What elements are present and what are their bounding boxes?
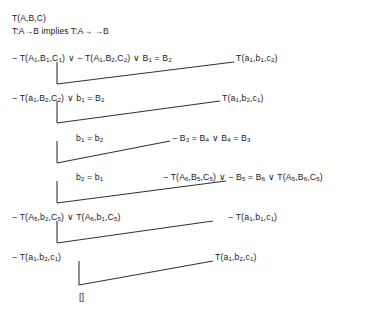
clause-empty: [] [79,292,84,303]
clause-left-5: − T(A5,b2,C5) ∨ T(A6,b1,C5) [12,212,121,223]
edge-1 [57,62,234,84]
edge-3 [57,141,170,163]
edge-2 [57,101,220,123]
clause-left-6: − T(a1,b2,c1) [12,252,61,263]
edge-6 [79,261,213,285]
edge-2-diagonal [57,101,220,123]
proof-tree-diagram: T(A,B,C) T:A→B implies T:A→ →B − T(A1,B1… [0,0,372,318]
clause-right-1: T(a1,b1,c2) [236,53,278,64]
edge-6-diagonal [79,261,213,285]
resolution-edges [0,0,372,318]
clause-left-2: − T(a1,B2,C2) ∨ b1 = B2 [12,93,105,104]
clause-right-6: T(a1,b2,c1) [215,252,257,263]
clause-right-4: − T(A6,B5,C5) ∨ − B5 = B6 ∨ T(A5,B6,C5) [163,172,323,183]
clause-right-5: − T(a1,b1,c1) [228,212,277,223]
clause-right-2: T(a1,b2,c1) [222,93,264,104]
clause-left-4: b2 = b1 [76,172,103,183]
predicate-declaration: T(A,B,C) [12,13,46,24]
edge-3-diagonal [57,141,170,163]
edge-5 [57,221,213,243]
edge-1-diagonal [57,62,234,84]
edge-4-diagonal [57,181,226,203]
clause-left-3: b1 = b2 [76,133,103,144]
functionality-axiom: T:A→B implies T:A→ →B [12,26,109,37]
edge-4 [57,181,226,203]
clause-left-1: − T(A1,B1,C1) ∨ − T(A1,B2,C2) ∨ B1 = B2 [12,53,172,64]
edge-5-diagonal [57,221,213,243]
clause-right-3: − B3 = B4 ∨ B4 = B3 [172,133,250,144]
